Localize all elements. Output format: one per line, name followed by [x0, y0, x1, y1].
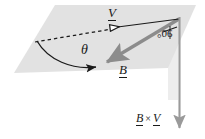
vector-b-label: B	[119, 63, 127, 78]
vector-v-label: V	[108, 6, 116, 21]
angle-theta-label: θ	[81, 43, 88, 57]
cross-product-v-text: V	[153, 112, 160, 126]
right-angle-90-label-text: 90°	[157, 28, 172, 40]
right-angle-90-label: 90°	[157, 28, 172, 39]
cross-product-label: B×V	[136, 112, 160, 126]
cross-product-times-symbol: ×	[143, 113, 153, 124]
vector-diagram-figure: V B θ 90° B×V	[0, 0, 205, 139]
diagram-canvas	[0, 0, 205, 139]
vector-v-label-text: V	[108, 6, 116, 21]
vector-b-label-text: B	[119, 63, 127, 78]
angle-theta-label-text: θ	[81, 42, 88, 57]
